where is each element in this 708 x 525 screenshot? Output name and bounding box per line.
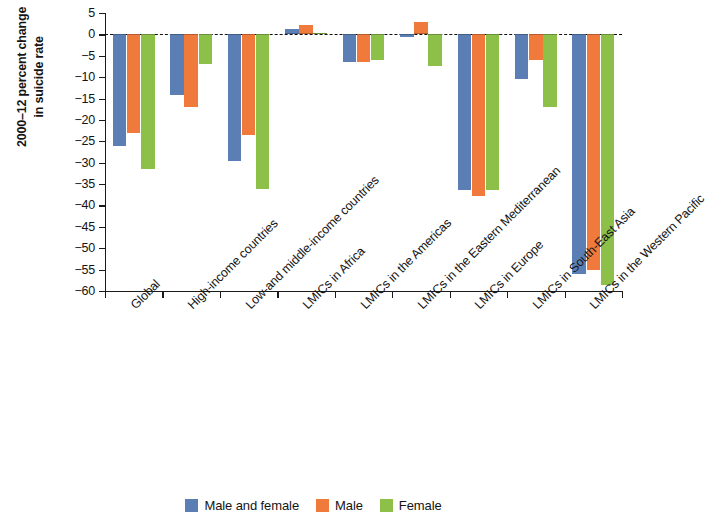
y-axis-tick-label: −60 (74, 284, 95, 298)
legend-label: Male and female (204, 498, 299, 513)
bar (458, 34, 472, 190)
x-axis-tick (450, 291, 451, 298)
y-axis-tick: −50 (99, 248, 105, 249)
bar (529, 34, 543, 60)
bar (572, 34, 586, 274)
bar (313, 33, 327, 35)
x-axis-tick (392, 291, 393, 298)
bar (343, 34, 357, 62)
legend-swatch-icon (316, 499, 329, 512)
x-axis-tick (162, 291, 163, 298)
bar (127, 34, 141, 132)
y-axis-title: 2000–12 percent change in suicide rate (14, 0, 48, 182)
y-axis-tick-label: −30 (74, 156, 95, 170)
bar (543, 34, 557, 107)
y-axis-tick: −15 (99, 99, 105, 100)
bar (357, 34, 371, 62)
bar (486, 34, 500, 190)
legend-label: Female (399, 498, 442, 513)
legend-swatch-icon (380, 499, 393, 512)
bar (184, 34, 198, 107)
y-axis-tick-label: −25 (74, 134, 95, 148)
legend-item: Female (380, 498, 442, 513)
y-axis-tick-label: −35 (74, 177, 95, 191)
bar (242, 34, 256, 135)
legend-item: Male and female (185, 498, 299, 513)
legend-label: Male (335, 498, 363, 513)
x-axis-tick (335, 291, 336, 298)
bar (400, 34, 414, 37)
legend-item: Male (316, 498, 363, 513)
bar (515, 34, 529, 79)
y-axis-tick-label: −55 (74, 263, 95, 277)
bar (601, 34, 615, 284)
y-axis-tick: −45 (99, 227, 105, 228)
y-axis-tick-label: −40 (74, 198, 95, 212)
plot-area: 50−5−10−15−20−25−30−35−40−45−50−55−60 (105, 13, 622, 291)
x-axis-tick (565, 291, 566, 298)
y-axis-tick: −30 (99, 163, 105, 164)
x-axis-tick (622, 291, 623, 298)
bar (199, 34, 213, 64)
bar (170, 34, 184, 95)
y-axis-tick: −25 (99, 141, 105, 142)
bar (587, 34, 601, 269)
y-axis-tick: −35 (99, 184, 105, 185)
x-axis-line (99, 291, 622, 292)
y-axis-tick-label: −10 (74, 70, 95, 84)
legend-swatch-icon (185, 499, 198, 512)
y-axis-tick-label: −50 (74, 241, 95, 255)
x-axis-tick (105, 291, 106, 298)
bar (256, 34, 270, 189)
y-axis-title-line-2: in suicide rate (31, 0, 48, 182)
y-axis-tick: −20 (99, 120, 105, 121)
bar (428, 34, 442, 66)
bar (113, 34, 127, 145)
y-axis-tick: −40 (99, 205, 105, 206)
y-axis-title-line-1: 2000–12 percent change (14, 0, 31, 182)
y-axis-tick-label: −20 (74, 113, 95, 127)
y-axis-tick: 5 (99, 13, 105, 14)
y-axis-tick-label: −15 (74, 92, 95, 106)
y-axis-tick-label: 0 (88, 27, 95, 41)
bar (472, 34, 486, 196)
bar (414, 22, 428, 35)
bar (285, 29, 299, 34)
bar (228, 34, 242, 160)
y-axis-tick: −5 (99, 56, 105, 57)
bar (371, 34, 385, 60)
y-axis-tick-label: −45 (74, 220, 95, 234)
y-axis-tick-label: 5 (88, 6, 95, 20)
bar (141, 34, 155, 169)
y-axis-tick: −55 (99, 270, 105, 271)
x-axis-tick (220, 291, 221, 298)
y-axis-tick: −10 (99, 77, 105, 78)
y-axis-tick-label: −5 (81, 49, 95, 63)
y-axis-line (105, 13, 106, 291)
x-axis-tick (277, 291, 278, 298)
legend: Male and femaleMaleFemale (0, 498, 627, 513)
bar (299, 25, 313, 34)
x-axis-tick (507, 291, 508, 298)
